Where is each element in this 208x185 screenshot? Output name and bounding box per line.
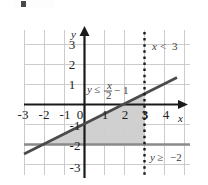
inequality-graph-figure: y x 3 2 1 -1 -2 -3 -3 -2 -1 0 1 2 3 4 y … [0, 0, 208, 185]
label-horizontal-inequality: y ≥ −2 [149, 151, 182, 163]
y-tick-label-minus-2: -2 [70, 138, 81, 153]
y-tick-label-1: 1 [69, 77, 76, 92]
x-tick-label-1: 1 [102, 107, 109, 122]
y-tick-label-2: 2 [69, 57, 76, 72]
label-horizontal-inequality-relation: ≥ [157, 151, 163, 163]
x-tick-label-zero: 0 [77, 107, 84, 122]
label-vertical-inequality-relation: < [160, 40, 166, 52]
coordinate-plane-svg: y x 3 2 1 -1 -2 -3 -3 -2 -1 0 1 2 3 4 y … [0, 0, 208, 185]
x-axis-name: x [177, 112, 183, 124]
label-vertical-inequality-value: 3 [172, 40, 178, 52]
y-axis-arrowhead [80, 26, 90, 36]
x-tick-label-4: 4 [163, 107, 170, 122]
label-horizontal-inequality-variable: y [149, 151, 155, 163]
x-tick-label-minus-2: -2 [39, 107, 50, 122]
label-line-inequality-lhs: y [86, 83, 92, 95]
y-tick-label-minus-3: -3 [70, 160, 81, 175]
label-line-inequality-relation: ≤ [94, 83, 100, 95]
label-vertical-inequality-variable: x [151, 40, 157, 52]
label-line-inequality: y ≤ x 2 − 1 [86, 79, 128, 101]
crop-artifact-mark [21, 1, 26, 7]
y-tick-label-3: 3 [69, 37, 76, 52]
x-tick-label-minus-3: -3 [18, 107, 29, 122]
x-tick-label-2: 2 [122, 107, 129, 122]
crop-artifact-background [13, 0, 55, 8]
label-line-inequality-denominator: 2 [106, 89, 112, 101]
x-tick-label-3: 3 [142, 107, 149, 122]
label-line-inequality-tail: − 1 [114, 84, 128, 96]
label-horizontal-inequality-value: −2 [170, 151, 182, 163]
x-axis-arrowhead [178, 100, 188, 109]
label-vertical-inequality: x < 3 [151, 40, 178, 52]
x-tick-label-minus-1: -1 [60, 107, 71, 122]
